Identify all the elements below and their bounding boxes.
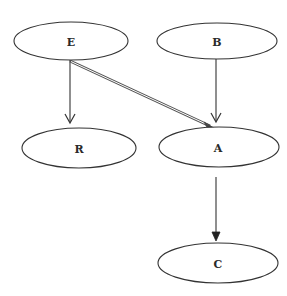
- diagram-canvas: E B R A C: [0, 0, 287, 296]
- edge-e-to-a: [70, 61, 214, 129]
- arrowhead-filled-icon: [212, 232, 220, 241]
- edge-b-to-a: [211, 59, 221, 122]
- node-label: A: [213, 142, 223, 155]
- node-b: B: [157, 23, 277, 59]
- node-c: C: [158, 243, 278, 283]
- edge-e-to-r: [65, 60, 75, 123]
- edge-a-to-c: [212, 177, 220, 241]
- node-label: C: [214, 258, 223, 271]
- node-e: E: [14, 22, 128, 60]
- node-label: R: [74, 143, 84, 156]
- node-r: R: [22, 128, 136, 168]
- node-label: E: [67, 36, 75, 49]
- node-a: A: [159, 127, 279, 167]
- edge-line-inner: [71, 62, 208, 126]
- node-label: B: [212, 36, 221, 49]
- graph-svg: E B R A C: [0, 0, 287, 296]
